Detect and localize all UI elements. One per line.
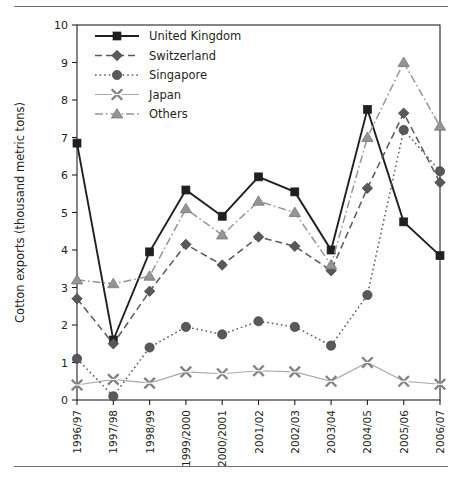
marker-circle [254, 317, 263, 326]
marker-square [146, 248, 154, 256]
legend-label: Others [149, 107, 188, 121]
marker-square [182, 186, 190, 194]
x-axis-tick-label: 1999/2000 [180, 410, 192, 467]
bottom-rule [14, 466, 448, 467]
y-axis-tick-label: 6 [61, 169, 68, 182]
x-axis-tick-label: 2001/02 [253, 410, 265, 454]
x-axis-tick-label: 2000/2001 [216, 410, 228, 467]
y-axis-tick-label: 8 [61, 94, 68, 107]
x-axis-tick-label: 2003/04 [325, 410, 337, 454]
marker-circle [326, 341, 335, 350]
legend-label: United Kingdom [149, 29, 241, 43]
x-axis-tick-label: 2006/07 [434, 410, 446, 454]
y-axis-tick-label: 7 [61, 132, 68, 145]
x-axis-tick-label: 2004/05 [361, 410, 373, 454]
x-axis-tick-label: 1998/99 [144, 410, 156, 454]
marker-square [291, 188, 299, 196]
marker-circle [145, 343, 154, 352]
marker-circle [435, 167, 444, 176]
top-rule [14, 6, 448, 7]
marker-square [400, 218, 408, 226]
y-axis-title: Cotton exports (thousand metric tons) [13, 102, 27, 323]
y-axis-tick-label: 5 [61, 207, 68, 220]
marker-circle [112, 70, 121, 79]
marker-square [436, 252, 444, 260]
y-axis-tick-label: 9 [61, 57, 68, 70]
marker-square [255, 173, 263, 181]
y-axis-tick-label: 10 [54, 19, 68, 32]
y-axis-tick-label: 0 [61, 394, 68, 407]
marker-circle [363, 290, 372, 299]
marker-circle [181, 322, 190, 331]
marker-square [363, 105, 371, 113]
legend-label: Japan [148, 88, 181, 102]
marker-square [218, 212, 226, 220]
legend-label: Singapore [149, 68, 207, 82]
marker-circle [109, 392, 118, 401]
x-axis-tick-label: 1996/97 [71, 410, 83, 454]
y-axis-tick-label: 4 [61, 244, 68, 257]
marker-circle [218, 330, 227, 339]
marker-square [113, 32, 121, 40]
x-axis-tick-label: 1997/98 [107, 410, 119, 454]
marker-circle [399, 125, 408, 134]
y-axis-tick-label: 2 [61, 319, 68, 332]
legend-label: Switzerland [149, 49, 216, 63]
marker-circle [72, 354, 81, 363]
x-axis-tick-label: 2005/06 [398, 410, 410, 454]
y-axis-tick-label: 1 [61, 357, 68, 370]
y-axis-tick-label: 3 [61, 282, 68, 295]
figure-container: 012345678910Cotton exports (thousand met… [0, 0, 462, 482]
plot-frame [77, 25, 440, 400]
marker-square [73, 139, 81, 147]
marker-circle [290, 322, 299, 331]
line-chart: 012345678910Cotton exports (thousand met… [0, 0, 462, 482]
x-axis-tick-label: 2002/03 [289, 410, 301, 454]
